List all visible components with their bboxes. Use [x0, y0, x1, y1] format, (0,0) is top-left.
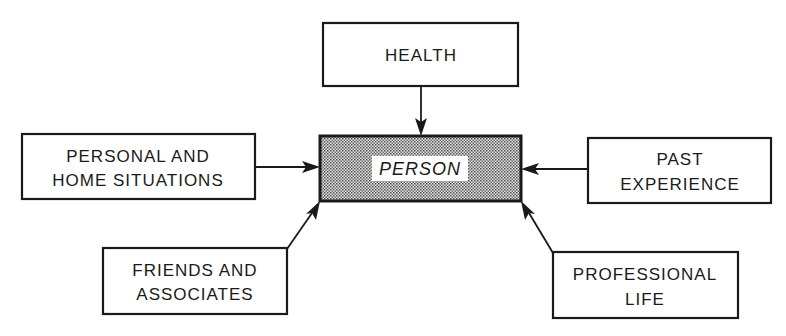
node-health[interactable]: HEALTH	[323, 23, 518, 86]
influences-diagram: PERSON HEALTH PERSONAL AND HOME SITUATIO…	[0, 0, 786, 336]
node-friends-label-line1: FRIENDS AND	[132, 261, 257, 280]
node-friends-label-line2: ASSOCIATES	[136, 285, 253, 304]
node-professional-label-line1: PROFESSIONAL	[573, 265, 717, 284]
arrowhead-icon	[521, 201, 535, 220]
edge-professional-to-person	[521, 201, 553, 253]
node-personal-home[interactable]: PERSONAL AND HOME SITUATIONS	[22, 134, 255, 199]
node-person[interactable]: PERSON	[320, 136, 521, 201]
edge-past-experience-to-person	[521, 163, 588, 175]
node-past-experience-label-line1: PAST	[656, 150, 703, 169]
node-professional-label-line2: LIFE	[625, 290, 665, 309]
edge-health-to-person	[415, 87, 427, 136]
node-health-label: HEALTH	[385, 46, 457, 65]
node-past-experience[interactable]: PAST EXPERIENCE	[588, 138, 771, 203]
edge-personal-home-to-person	[256, 161, 320, 173]
node-person-label: PERSON	[379, 159, 461, 179]
node-personal-home-label-line1: PERSONAL AND	[66, 147, 210, 166]
node-past-experience-label-line2: EXPERIENCE	[620, 175, 740, 194]
node-friends-associates[interactable]: FRIENDS AND ASSOCIATES	[103, 248, 287, 314]
node-personal-home-label-line2: HOME SITUATIONS	[52, 171, 223, 190]
node-professional-life[interactable]: PROFESSIONAL LIFE	[553, 252, 738, 318]
edge-friends-to-person	[287, 201, 320, 249]
